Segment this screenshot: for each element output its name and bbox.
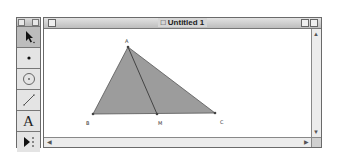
zoom-box[interactable] — [301, 19, 309, 27]
window-title: □ Untitled 1 — [44, 18, 321, 28]
point-c[interactable] — [214, 112, 217, 115]
scroll-left-icon[interactable]: ◀ — [45, 138, 53, 146]
point-tool[interactable] — [17, 48, 40, 69]
sketch-canvas[interactable]: A B M C — [44, 29, 311, 137]
circle-compass-icon — [22, 72, 36, 86]
toolbox-palette: A — [16, 17, 41, 148]
horizontal-scrollbar[interactable]: ◀ ▶ — [44, 137, 311, 147]
window-title-text: Untitled 1 — [168, 18, 204, 27]
triangle-construction: A B M C — [44, 29, 312, 137]
collapse-box[interactable] — [310, 19, 318, 27]
compass-tool[interactable] — [17, 69, 40, 90]
toolbox-close-box[interactable] — [18, 19, 25, 26]
label-c: C — [220, 119, 224, 125]
toolbox-titlebar[interactable] — [17, 18, 40, 27]
scroll-down-icon[interactable]: ▼ — [312, 128, 320, 136]
window-titlebar[interactable]: □ Untitled 1 — [44, 18, 321, 29]
toolbox-collapse-box[interactable] — [32, 19, 39, 26]
point-a[interactable] — [127, 46, 130, 49]
label-b: B — [86, 120, 90, 126]
label-a: A — [125, 38, 129, 44]
custom-tool[interactable] — [17, 132, 40, 152]
triangle-abc[interactable] — [93, 47, 215, 114]
vertical-scrollbar[interactable]: ▲ ▼ — [311, 29, 321, 137]
sketch-window: □ Untitled 1 A B M C ▲ ▼ ◀ ▶ — [43, 17, 322, 148]
arrow-pointer-icon — [23, 30, 35, 44]
label-m: M — [158, 120, 162, 126]
point-m[interactable] — [156, 113, 159, 116]
scroll-right-icon[interactable]: ▶ — [302, 138, 310, 146]
selection-arrow-tool[interactable] — [17, 27, 40, 48]
point-b[interactable] — [92, 113, 95, 116]
custom-tool-play-icon — [22, 135, 36, 149]
scroll-up-icon[interactable]: ▲ — [312, 30, 320, 38]
text-a-icon: A — [23, 114, 34, 129]
text-tool[interactable]: A — [17, 111, 40, 132]
point-icon — [23, 52, 35, 64]
line-segment-icon — [22, 93, 36, 107]
straightedge-tool[interactable] — [17, 90, 40, 111]
resize-grip[interactable] — [311, 137, 321, 147]
